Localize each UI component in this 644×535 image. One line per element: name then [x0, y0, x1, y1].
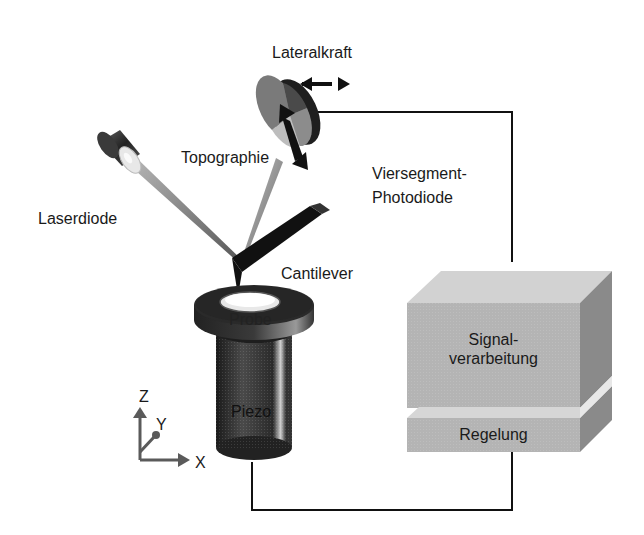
- lateral-force-label: Lateralkraft: [272, 43, 352, 62]
- lateral-force-arrow-icon: [300, 77, 350, 91]
- topography-label: Topographie: [181, 148, 269, 167]
- axis-z-label: Z: [139, 387, 149, 406]
- axis-y-label: Y: [156, 415, 167, 434]
- axis-x-label: X: [195, 453, 206, 472]
- photodiode-label-line1: Viersegment-: [372, 164, 467, 183]
- laser-diode-label: Laserdiode: [38, 209, 117, 228]
- piezo-label: Piezo: [231, 402, 271, 421]
- sample-label: Probe: [229, 310, 272, 329]
- signal-processing-label: Signal- verarbeitung: [407, 330, 580, 368]
- signal-processing-label-line2: verarbeitung: [449, 350, 538, 367]
- control-label: Regelung: [407, 425, 580, 444]
- laser-diode-icon: [93, 128, 145, 177]
- cantilever-label: Cantilever: [281, 264, 353, 283]
- signal-processing-label-line1: Signal-: [469, 331, 519, 348]
- photodiode-label-line2: Photodiode: [372, 188, 453, 207]
